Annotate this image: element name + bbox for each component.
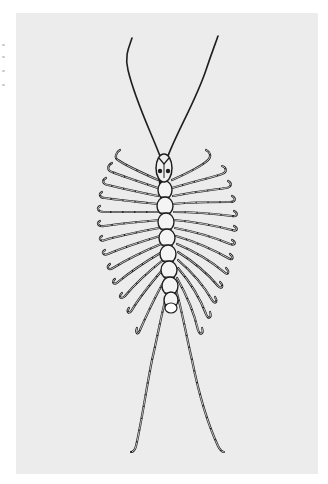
antenna-left [127,38,160,156]
body-segment-5 [160,245,176,263]
leg-right-1 [172,150,210,180]
centipede-illustration [0,0,328,484]
body-segment-6 [161,261,177,279]
antenna-right [168,36,218,156]
scanned-page [0,0,328,484]
illustration-plate [16,13,318,474]
leg-left-3 [103,178,158,196]
leg-right-4 [173,196,235,204]
leg-left-14 [131,290,168,452]
centipede-head [156,154,172,182]
legs-left [98,150,168,452]
eye-right [166,169,170,173]
antennae [127,36,218,156]
legs-right [172,150,237,452]
tail-segment [165,303,177,313]
body-segment-2 [157,197,173,215]
leg-right-14 [176,290,224,452]
leg-left-5 [98,206,158,212]
body-segment-4 [159,229,175,247]
eye-left [158,169,162,173]
body-segment-3 [158,213,174,231]
